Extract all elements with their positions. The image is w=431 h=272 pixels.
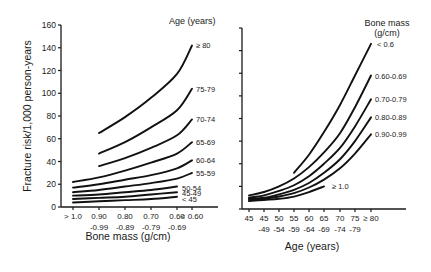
right-x-ticks: 4545-4950-5455-5960-6465-6970-7475-79≥ 8…: [245, 209, 380, 234]
series-label: ≥ 80: [196, 41, 211, 50]
x-tick-label: 0.90: [91, 212, 107, 221]
series-label: 70-74: [196, 115, 215, 124]
y-tick-label: 80: [47, 111, 57, 121]
series-label: 75-79: [196, 85, 215, 94]
series-label: 65-69: [196, 138, 215, 147]
left-series-lines: [73, 45, 192, 202]
series-line: [99, 45, 192, 133]
x-tick-label-line2: -49: [258, 225, 270, 234]
x-tick-label-line2: -74: [334, 225, 346, 234]
right-series-lines: [249, 44, 371, 201]
x-tick-label-line2: -79: [349, 225, 361, 234]
series-label: < 0.6: [377, 40, 394, 49]
left-x-ticks: > 1.00.90-0.990.80-0.890.70-0.790.60-0.6…: [64, 207, 204, 232]
right-chart-age: 4545-4950-5455-5960-6465-6970-7475-79≥ 8…: [239, 18, 410, 252]
y-tick-label: 160: [42, 20, 56, 30]
x-tick-label-line2: -54: [273, 225, 285, 234]
series-line: [249, 76, 371, 196]
x-tick-label: < 0.60: [181, 212, 204, 221]
x-tick-label: 65: [320, 214, 329, 223]
x-tick-label: 75: [351, 214, 360, 223]
series-label: ≥ 1.0: [332, 182, 349, 191]
series-line: [99, 89, 192, 154]
y-tick-label: 60: [47, 134, 57, 144]
x-tick-label-line2: -59: [288, 225, 300, 234]
right-legend-title-line1: Bone mass: [364, 18, 410, 28]
series-line: [294, 44, 371, 173]
x-tick-label: 0.80: [117, 212, 133, 221]
series-line: [99, 119, 192, 166]
right-x-axis-label: Age (years): [285, 240, 339, 252]
x-tick-label: 55: [290, 214, 299, 223]
x-tick-label: 45: [245, 214, 254, 223]
x-tick-label-line2: -64: [303, 225, 315, 234]
series-label: 0.90-0.99: [375, 130, 407, 139]
series-line: [73, 142, 192, 182]
x-tick-label: > 1.0: [64, 212, 83, 221]
series-line: [73, 173, 192, 192]
left-y-ticks: 020406080100120140160: [42, 20, 61, 212]
right-series-labels: < 0.60.60-0.690.70-0.790.80-0.890.90-0.9…: [332, 40, 407, 192]
left-series-labels: ≥ 8075-7970-7465-6960-6455-5950-5445-49<…: [182, 41, 215, 203]
right-legend-title-line2: (g/cm): [374, 28, 400, 38]
y-tick-label: 120: [42, 66, 56, 76]
x-tick-label: 50: [275, 214, 284, 223]
left-x-axis-label: Bone mass (g/cm): [85, 230, 170, 242]
x-tick-label-line2: -69: [318, 225, 330, 234]
y-tick-label: 20: [47, 179, 57, 189]
series-label: 60-64: [196, 156, 215, 165]
x-tick-label: 0.70: [143, 212, 159, 221]
series-line: [73, 160, 192, 187]
left-chart-bone-mass: 020406080100120140160 > 1.00.90-0.990.80…: [21, 16, 218, 242]
series-label: 0.80-0.89: [375, 113, 407, 122]
series-label: 0.60-0.69: [375, 72, 407, 81]
x-tick-label: 45: [260, 214, 269, 223]
x-tick-label: 70: [336, 214, 345, 223]
left-y-axis-label: Fracture risk/1,000 person-years: [21, 40, 33, 192]
series-label: 0.70-0.79: [375, 95, 407, 104]
left-legend-title: Age (years): [169, 16, 216, 26]
x-tick-label-line2: -0.69: [168, 223, 187, 232]
fracture-risk-figure: 020406080100120140160 > 1.00.90-0.990.80…: [0, 0, 431, 272]
x-tick-label: ≥ 80: [363, 214, 379, 223]
series-label: 55-59: [196, 169, 215, 178]
y-tick-label: 40: [47, 157, 57, 167]
y-tick-label: 0: [51, 202, 56, 212]
y-tick-label: 100: [42, 88, 56, 98]
y-tick-label: 140: [42, 43, 56, 53]
x-tick-label: 60: [305, 214, 314, 223]
series-label: < 45: [182, 195, 197, 204]
